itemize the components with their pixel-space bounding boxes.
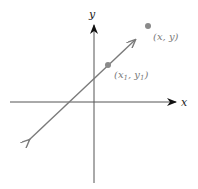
linear-function-line <box>29 40 135 140</box>
point-x1-y1-dot <box>105 62 111 68</box>
x-axis-label: x <box>181 96 188 109</box>
diagram-svg: y x (x, y) (x1, y1) <box>0 0 198 189</box>
coordinate-diagram: y x (x, y) (x1, y1) <box>0 0 198 189</box>
point-x-y-dot <box>145 23 151 29</box>
point-x1-y1-label: (x1, y1) <box>114 69 149 82</box>
point-x-y-label: (x, y) <box>153 31 179 42</box>
y-axis-label: y <box>88 8 96 21</box>
